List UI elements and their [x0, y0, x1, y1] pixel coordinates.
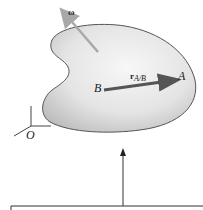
rigid-body-shape [43, 24, 196, 132]
omega-label: ω [68, 7, 75, 17]
point-b-label: B [94, 81, 102, 95]
rigid-body-diagram: ω B A rA/B O [0, 0, 203, 210]
origin-label: O [26, 128, 35, 142]
point-a-label: A [177, 69, 186, 83]
